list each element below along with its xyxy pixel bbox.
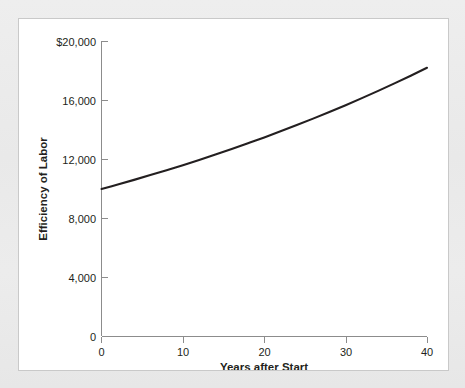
y-tick-label-8000: 8,000	[68, 213, 96, 225]
x-axis-title: Years after Start	[220, 361, 308, 370]
y-tick-label-4000: 4,000	[68, 272, 96, 284]
line-chart-svg: $20,000 16,000 12,000 8,000 4,000 0 0	[19, 19, 448, 370]
plot-area: $20,000 16,000 12,000 8,000 4,000 0 0	[19, 19, 448, 370]
y-tick-label-20000: $20,000	[56, 36, 96, 48]
x-axis-ticks	[102, 337, 428, 343]
x-axis-tick-labels: 0 10 20 30 40	[98, 346, 433, 358]
y-axis-ticks	[102, 42, 108, 278]
x-tick-label-10: 10	[177, 346, 189, 358]
y-tick-label-12000: 12,000	[62, 154, 96, 166]
x-tick-label-20: 20	[258, 346, 270, 358]
figure-page: $20,000 16,000 12,000 8,000 4,000 0 0	[0, 0, 465, 388]
y-tick-label-0: 0	[90, 331, 96, 343]
y-tick-label-16000: 16,000	[62, 95, 96, 107]
chart-card: $20,000 16,000 12,000 8,000 4,000 0 0	[18, 18, 449, 371]
y-axis-title: Efficiency of Labor	[37, 137, 49, 241]
x-tick-label-40: 40	[421, 346, 433, 358]
x-tick-label-30: 30	[340, 346, 352, 358]
x-tick-label-0: 0	[98, 346, 104, 358]
efficiency-of-labor-curve	[102, 68, 428, 189]
y-axis-tick-labels: $20,000 16,000 12,000 8,000 4,000 0	[56, 36, 96, 343]
